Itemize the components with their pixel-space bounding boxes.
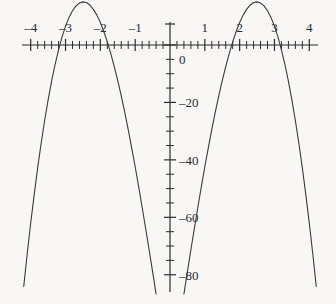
x-tick-label: –3 bbox=[59, 21, 72, 34]
chart-figure: –4–3–2–11234 0–20–40–60–80 bbox=[0, 0, 336, 304]
y-tick-label: –60 bbox=[179, 211, 199, 224]
y-tick-label: –40 bbox=[179, 153, 199, 166]
y-tick-label: –80 bbox=[179, 268, 199, 281]
x-tick-label: –1 bbox=[129, 21, 142, 34]
y-tick-label: –20 bbox=[179, 96, 199, 109]
x-tick-label: 3 bbox=[271, 21, 278, 34]
plot-surface bbox=[0, 0, 336, 304]
x-tick-label: –2 bbox=[94, 21, 107, 34]
y-tick-label: 0 bbox=[179, 52, 186, 65]
y-axis-group bbox=[164, 22, 176, 292]
x-tick-label: 4 bbox=[306, 21, 313, 34]
x-tick-label: –4 bbox=[24, 21, 37, 34]
x-tick-label: 1 bbox=[202, 21, 209, 34]
x-tick-label: 2 bbox=[236, 21, 243, 34]
